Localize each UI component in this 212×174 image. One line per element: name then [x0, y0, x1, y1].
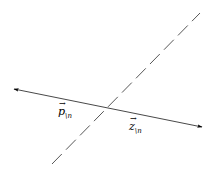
diagram-canvas [0, 0, 212, 174]
dashed-line [52, 13, 200, 164]
label-z-subscript: \n [135, 127, 142, 135]
solid-double-arrow [14, 89, 202, 127]
label-p-vector: →p\n [58, 106, 72, 117]
label-p-subscript: \n [65, 112, 72, 120]
vector-arrow-icon: → [130, 115, 137, 123]
vector-arrow-icon: → [59, 100, 66, 108]
label-z-vector: →z\n [129, 121, 142, 132]
